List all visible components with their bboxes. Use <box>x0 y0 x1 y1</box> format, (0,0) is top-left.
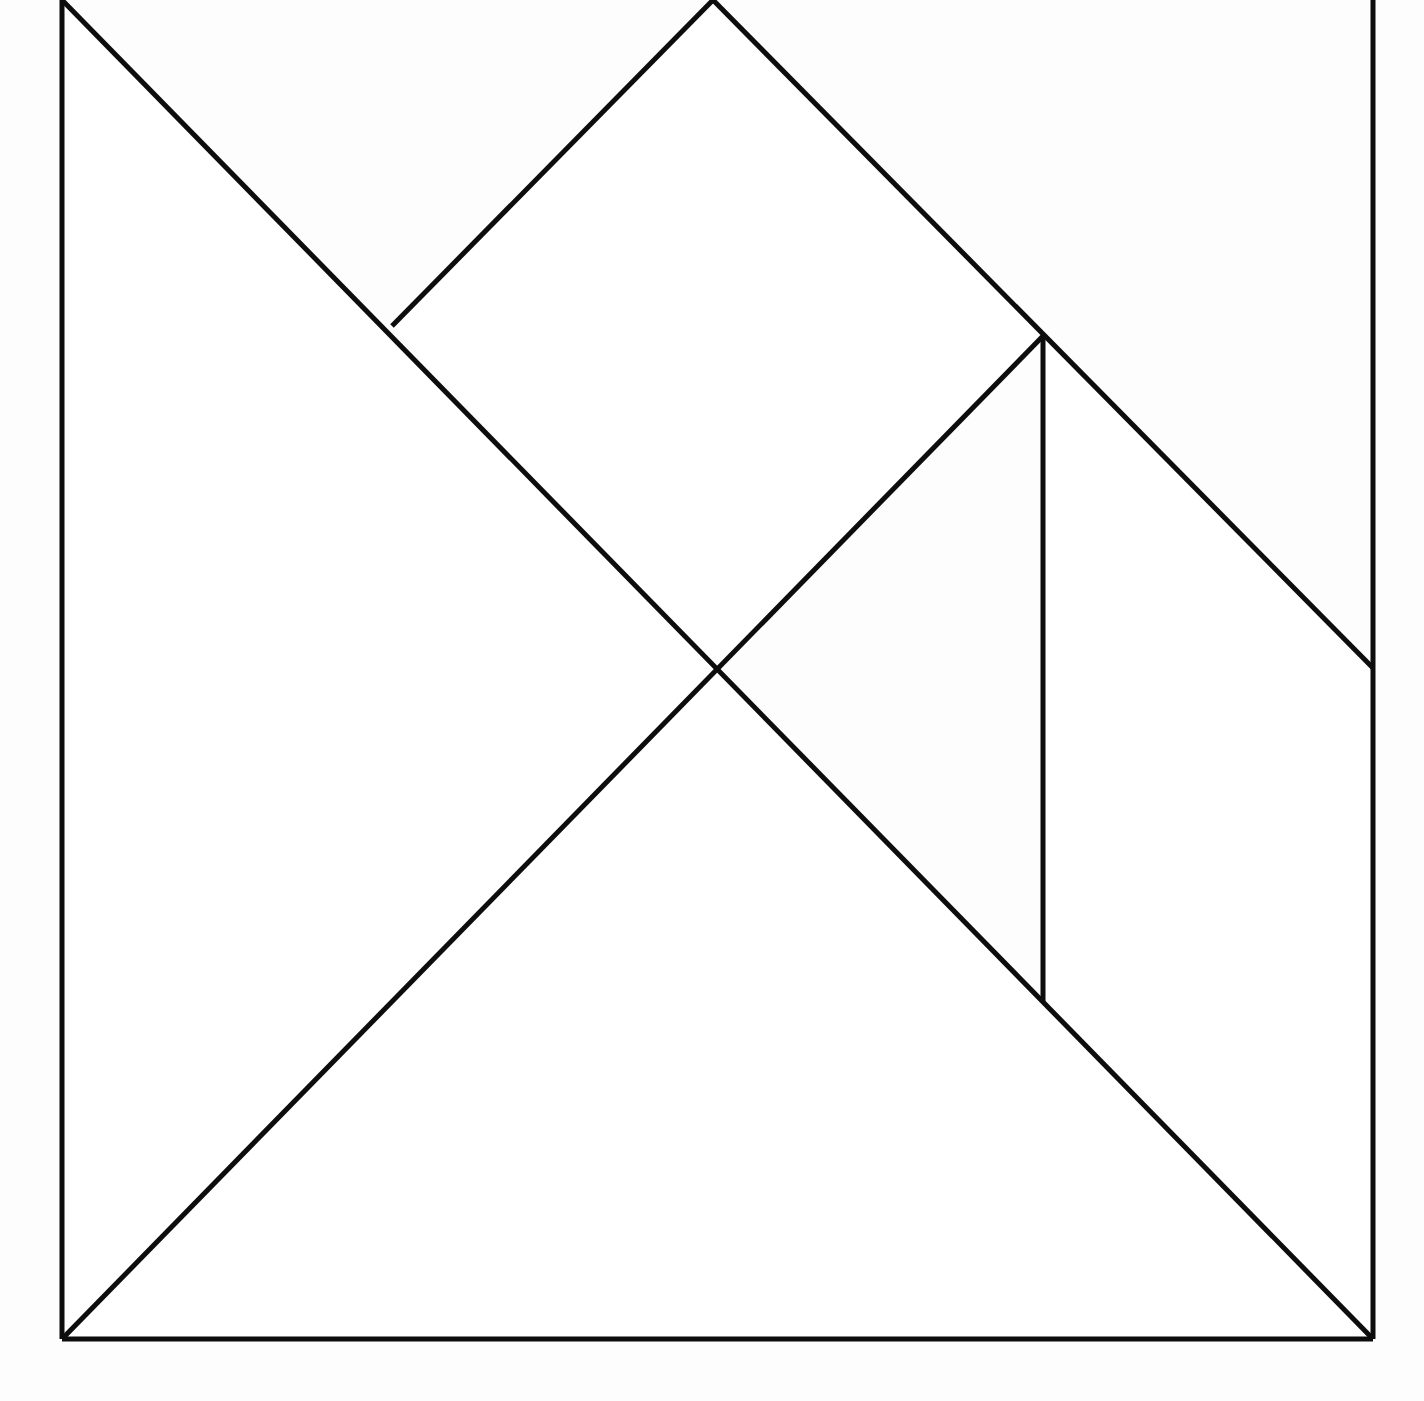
tangram-diagram <box>0 0 1424 1401</box>
tangram-figure-root <box>0 0 1424 1401</box>
